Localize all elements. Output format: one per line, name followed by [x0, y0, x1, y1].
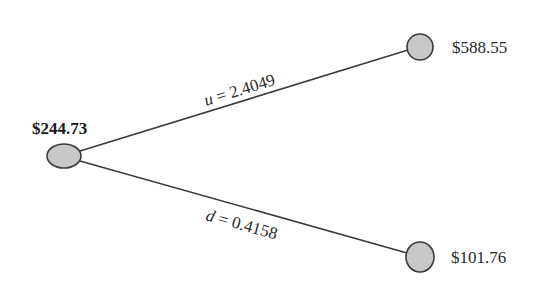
down-factor-value: 0.4158 — [230, 213, 280, 244]
down-branch-line — [80, 161, 407, 253]
start-price-label: $244.73 — [32, 119, 87, 138]
down-price-label: $101.76 — [451, 248, 506, 267]
binomial-tree-diagram: $244.73 $588.55 $101.76 u = 2.4049 d = 0… — [0, 0, 546, 287]
up-price-label: $588.55 — [452, 38, 507, 57]
up-node — [407, 34, 433, 60]
down-node — [406, 242, 434, 272]
start-node — [47, 144, 81, 168]
up-branch-line — [80, 50, 408, 151]
up-factor-label: u = 2.4049 — [202, 70, 278, 110]
down-factor-label: d = 0.4158 — [204, 206, 280, 244]
